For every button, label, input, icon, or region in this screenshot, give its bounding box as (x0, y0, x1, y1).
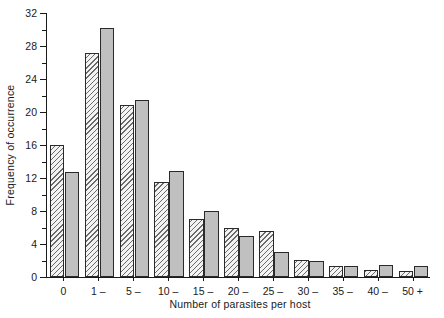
bar-solid-5 (239, 236, 254, 277)
y-tick-label: 12 (25, 172, 37, 184)
bar-solid-6 (274, 252, 289, 277)
x-tick-label-10: 50 + (402, 285, 423, 297)
x-tick-mark (413, 277, 414, 281)
y-tick-mark (40, 277, 46, 278)
x-tick-mark (98, 277, 99, 281)
x-tick-label-7: 30 – (298, 285, 318, 297)
bar-solid-8 (344, 266, 359, 277)
bar-solid-1 (100, 28, 115, 277)
x-tick-mark (343, 277, 344, 281)
x-tick-mark (308, 277, 309, 281)
y-tick-label: 0 (31, 271, 37, 283)
bar-solid-3 (169, 171, 184, 277)
y-minor-tick-mark (42, 63, 46, 64)
bar-hatched-10 (399, 271, 414, 277)
bar-hatched-4 (189, 219, 204, 277)
x-tick-mark (238, 277, 239, 281)
bar-solid-7 (309, 261, 324, 278)
y-tick-mark (40, 79, 46, 80)
x-axis-label: Number of parasites per host (40, 298, 440, 310)
y-tick-label: 24 (25, 73, 37, 85)
y-tick-label: 4 (31, 238, 37, 250)
x-tick-label-5: 20 – (228, 285, 248, 297)
x-tick-mark (168, 277, 169, 281)
x-tick-mark (378, 277, 379, 281)
x-tick-label-3: 10 – (158, 285, 178, 297)
bar-solid-2 (135, 100, 150, 277)
y-tick-mark (40, 13, 46, 14)
y-minor-tick-mark (42, 162, 46, 163)
bar-hatched-3 (154, 182, 169, 277)
y-minor-tick-mark (42, 228, 46, 229)
y-minor-tick-mark (42, 195, 46, 196)
x-tick-label-9: 40 – (367, 285, 387, 297)
y-tick-mark (40, 211, 46, 212)
y-tick-mark (40, 145, 46, 146)
y-tick-mark (40, 244, 46, 245)
bar-solid-9 (379, 265, 394, 277)
x-tick-mark (203, 277, 204, 281)
y-tick-mark (40, 112, 46, 113)
x-tick-label-0: 0 (61, 285, 67, 297)
y-tick-label: 28 (25, 40, 37, 52)
y-axis-label: Frequency of occurrence (2, 13, 18, 277)
bar-solid-4 (204, 211, 219, 277)
y-tick-mark (40, 178, 46, 179)
bar-solid-10 (414, 266, 429, 277)
bar-hatched-1 (85, 53, 100, 277)
bar-hatched-9 (364, 270, 379, 277)
bar-hatched-0 (50, 145, 65, 277)
x-tick-label-1: 1 – (91, 285, 106, 297)
x-tick-mark (63, 277, 64, 281)
y-tick-label: 16 (25, 139, 37, 151)
y-minor-tick-mark (42, 129, 46, 130)
plot-area: 04812162024283201 –5 –10 –15 –20 –25 –30… (46, 13, 430, 277)
bar-hatched-6 (259, 231, 274, 277)
y-minor-tick-mark (42, 30, 46, 31)
y-tick-label: 20 (25, 106, 37, 118)
y-tick-mark (40, 46, 46, 47)
parasites-per-host-bar-chart: Frequency of occurrence Number of parasi… (0, 0, 444, 318)
y-tick-label: 8 (31, 205, 37, 217)
bar-hatched-7 (294, 260, 309, 277)
y-minor-tick-mark (42, 261, 46, 262)
bar-hatched-2 (120, 105, 135, 277)
bar-solid-0 (65, 172, 80, 277)
x-tick-mark (133, 277, 134, 281)
x-tick-label-2: 5 – (126, 285, 141, 297)
x-tick-label-6: 25 – (263, 285, 283, 297)
bar-hatched-8 (329, 266, 344, 277)
x-tick-mark (273, 277, 274, 281)
y-tick-label: 32 (25, 7, 37, 19)
y-minor-tick-mark (42, 96, 46, 97)
x-tick-label-4: 15 – (193, 285, 213, 297)
bars-layer (47, 13, 430, 277)
bar-hatched-5 (224, 228, 239, 278)
x-tick-label-8: 35 – (333, 285, 353, 297)
